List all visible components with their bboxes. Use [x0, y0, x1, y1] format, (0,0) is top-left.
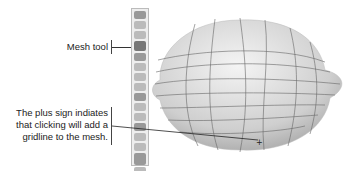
mesh-object-canvas[interactable]: +	[0, 0, 357, 171]
mesh-add-cursor-icon: +	[256, 138, 263, 147]
mesh-object	[153, 20, 342, 150]
